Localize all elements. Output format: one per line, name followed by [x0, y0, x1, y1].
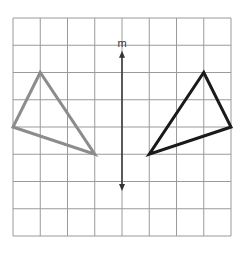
arrowhead-down-icon — [119, 184, 125, 191]
triangle-preimage — [13, 73, 95, 155]
arrowhead-up-icon — [119, 51, 125, 58]
line-label-m: m — [117, 37, 126, 49]
line-of-reflection — [119, 51, 125, 191]
triangle-image — [149, 73, 231, 155]
reflection-diagram: m — [0, 0, 244, 254]
